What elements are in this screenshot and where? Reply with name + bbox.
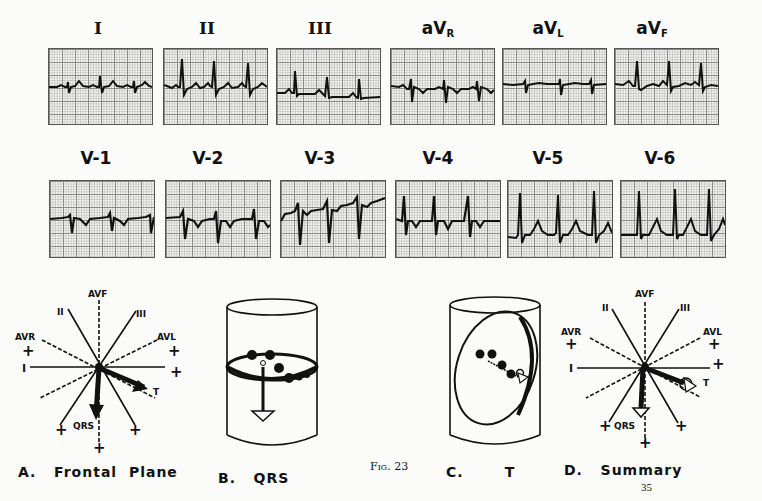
ecg-strip-v6 [620,180,726,258]
lead-label-v4: V-4 [398,148,478,168]
svg-text:+: + [712,355,725,373]
panel-caption-b: B. QRS [218,470,289,486]
axis-label-i: I [22,362,26,375]
ecg-strip-ii [163,48,268,125]
svg-text:+: + [129,421,142,439]
lead-label-ii: II [167,18,247,38]
axis-label-ii: II [57,307,64,317]
summary-label-iii: III [680,303,690,313]
axis-label-avr: AVR [15,332,35,342]
ecg-strip-v4 [395,180,501,258]
lead-label-avr: aVR [398,18,478,39]
svg-text:+: + [708,335,721,353]
ecg-strip-v2 [165,180,271,258]
ecg-strip-v3 [280,180,386,258]
axis-label-qrs: QRS [73,421,94,431]
svg-text:+: + [22,342,35,360]
lead-label-v1: V-1 [56,148,136,168]
ecg-strip-avl [502,48,607,125]
svg-text:+: + [93,439,106,455]
svg-text:+: + [565,335,578,353]
panel-caption-d: D. Summary [564,462,682,478]
svg-text:+: + [639,434,652,452]
summary-label-t: T [703,378,710,388]
summary-label-qrs: QRS [614,421,635,431]
ecg-strip-v1 [49,180,155,258]
svg-text:+: + [55,421,68,439]
svg-text:+: + [599,417,612,435]
lead-label-v5: V-5 [508,148,588,168]
qrs-cylinder-diagram [210,295,330,460]
lead-label-v6: V-6 [620,148,700,168]
lead-label-v2: V-2 [168,148,248,168]
panel-caption-a: A. Frontal Plane [18,464,178,480]
lead-label-iii: III [280,18,360,38]
axis-label-avl: AVL [157,332,176,342]
panel-caption-c: C. T [446,464,515,480]
figure-number: Fig. 23 [370,460,408,473]
summary-label-avf: AVF [635,289,654,299]
ecg-strip-avf [614,48,719,125]
lead-label-avf: aVF [612,18,692,39]
lead-label-i: I [58,18,138,38]
ecg-strip-i [48,48,153,125]
lead-label-avl: aVL [508,18,588,39]
summary-label-i: I [569,362,573,375]
ecg-strip-avr [390,48,495,125]
axis-label-iii: III [136,309,146,319]
svg-text:+: + [170,363,183,381]
t-cylinder-diagram [440,295,550,460]
summary-label-ii: II [602,303,609,313]
ecg-strip-iii [276,48,381,125]
ecg-strip-v5 [507,180,613,258]
lead-label-v3: V-3 [280,148,360,168]
axis-label-avf: AVF [88,289,107,299]
frontal-plane-diagram: AVF II III AVR AVL I T QRS + + + + + + [0,285,200,455]
svg-text:+: + [168,342,181,360]
svg-text:+: + [675,417,688,435]
page-number: 35 [641,481,652,493]
axis-label-t: T [153,387,160,397]
summary-diagram: AVF II III AVR AVL I T QRS + + + + + + [560,285,760,455]
